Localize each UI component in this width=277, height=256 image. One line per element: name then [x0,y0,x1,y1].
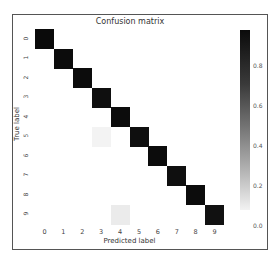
x-tick-label: 8 [186,228,205,236]
x-tick-label: 9 [205,228,224,236]
x-tick-label: 4 [111,228,130,236]
x-axis-label: Predicted label [35,237,224,245]
colorbar-tick-label: 0.6 [253,102,263,109]
y-tick-label: 9 [22,209,29,219]
confusion-matrix-grid [35,29,224,224]
x-tick-label: 1 [54,228,73,236]
y-tick-label: 1 [22,53,29,63]
colorbar-tick-label: 0.0 [253,222,263,229]
matrix-cell [111,205,130,225]
y-tick-label: 5 [22,131,29,141]
y-tick-label: 7 [22,170,29,180]
x-tick-label: 3 [92,228,111,236]
x-tick-label: 0 [35,228,54,236]
y-tick-label: 6 [22,150,29,160]
y-tick-label: 2 [22,72,29,82]
y-tick-label: 4 [22,111,29,121]
x-tick-label: 6 [148,228,167,236]
y-tick-label: 3 [22,92,29,102]
colorbar-tick-label: 0.4 [253,142,263,149]
chart-title: Confusion matrix [35,17,225,26]
matrix-cell [35,29,54,49]
matrix-cell [73,68,92,88]
matrix-cell [54,49,73,69]
matrix-cell [186,185,205,205]
y-tick-label: 8 [22,189,29,199]
matrix-cell [92,88,111,108]
colorbar-tick-label: 0.2 [253,182,263,189]
matrix-cell [148,146,167,166]
y-axis-label: True label [13,99,21,149]
colorbar-tick-label: 0.8 [253,62,263,69]
matrix-cell [205,205,224,225]
colorbar [240,30,250,210]
y-tick-label: 0 [22,33,29,43]
matrix-cell [111,107,130,127]
matrix-cell [167,166,186,186]
matrix-cell [92,127,111,147]
x-tick-label: 2 [73,228,92,236]
x-tick-label: 7 [167,228,186,236]
cropped-header-text [70,0,210,6]
matrix-cell [130,127,149,147]
x-tick-label: 5 [130,228,149,236]
